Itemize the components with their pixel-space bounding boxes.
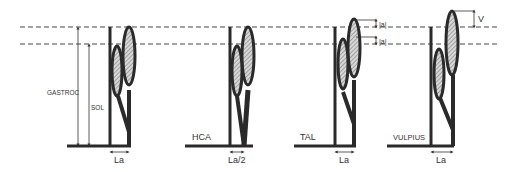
label-sol: SOL bbox=[91, 104, 104, 111]
label-lever-arm-half: La/2 bbox=[228, 155, 246, 165]
gastrocnemius-muscle bbox=[123, 27, 135, 85]
label-delta-gastroc: |a| bbox=[379, 21, 387, 29]
gastrocnemius-muscle bbox=[348, 19, 360, 77]
label-tal: TAL bbox=[300, 132, 316, 142]
label-hca: HCA bbox=[192, 132, 211, 142]
soleus-muscle bbox=[112, 46, 122, 96]
label-v: V bbox=[478, 14, 484, 24]
muscle-lengthening-diagram: GASTROC SOL La HCA La/2 |a| |a| TAL La bbox=[0, 0, 515, 172]
label-gastroc: GASTROC bbox=[47, 89, 79, 96]
label-lever-arm: La bbox=[339, 155, 349, 165]
label-lever-arm: La bbox=[436, 155, 446, 165]
panel-hca: HCA La/2 bbox=[185, 27, 254, 165]
gastrocnemius-muscle bbox=[446, 11, 458, 75]
gastrocnemius-muscle bbox=[242, 27, 254, 85]
soleus-muscle bbox=[434, 49, 444, 99]
label-lever-arm: La bbox=[114, 155, 124, 165]
label-delta-sol: |a| bbox=[379, 38, 387, 46]
label-vulpius: VULPIUS bbox=[393, 133, 425, 142]
soleus-muscle bbox=[338, 39, 348, 89]
panel-vulpius: V VULPIUS La bbox=[387, 11, 484, 165]
panel-normal: GASTROC SOL La bbox=[47, 27, 135, 165]
panel-tal: |a| |a| TAL La bbox=[294, 19, 387, 165]
soleus-muscle bbox=[232, 46, 242, 96]
